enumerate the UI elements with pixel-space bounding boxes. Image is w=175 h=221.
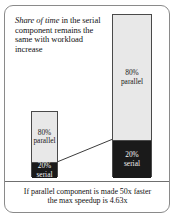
small-bar-serial-label: serial	[36, 171, 52, 179]
small-bar-parallel-segment: 80% parallel	[32, 112, 57, 162]
small-workload-bar: 80% parallel 20% serial	[31, 111, 58, 177]
large-bar-serial-segment: 20% serial	[113, 140, 151, 178]
caption-divider	[5, 181, 169, 182]
caption-line-2: the max speedup is 4.63x	[9, 196, 166, 205]
amdahl-law-figure: Share of time in the serial component re…	[0, 0, 175, 221]
large-bar-serial-label: serial	[124, 160, 140, 168]
headline-emphasis: Share of time	[15, 15, 59, 25]
small-bar-parallel-label: parallel	[33, 137, 55, 145]
caption-line-1: If parallel component is made 50x faster	[9, 187, 166, 196]
headline-text: Share of time in the serial component re…	[15, 16, 107, 54]
figure-caption: If parallel component is made 50x faster…	[9, 187, 166, 206]
large-bar-parallel-segment: 80% parallel	[113, 15, 151, 140]
serial-boundary-connector	[56, 134, 114, 166]
large-bar-parallel-label: parallel	[121, 78, 143, 86]
increased-workload-bar: 80% parallel 20% serial	[112, 14, 152, 177]
small-bar-serial-segment: 20% serial	[32, 162, 57, 178]
